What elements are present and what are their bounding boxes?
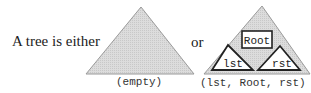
root-node-box: Root bbox=[242, 31, 272, 48]
root-label: Root bbox=[244, 35, 270, 47]
empty-tree-triangle bbox=[86, 7, 194, 74]
empty-case-label: (empty) bbox=[116, 76, 162, 88]
left-subtree-label: lst bbox=[223, 58, 243, 70]
node-case-label: (lst, Root, rst) bbox=[200, 77, 306, 89]
intro-text: A tree is either bbox=[12, 33, 100, 50]
connector-text: or bbox=[191, 34, 204, 51]
tree-definition-diagram: Root lst rst A tree is either or (empty)… bbox=[0, 0, 311, 93]
right-subtree-label: rst bbox=[272, 58, 292, 70]
